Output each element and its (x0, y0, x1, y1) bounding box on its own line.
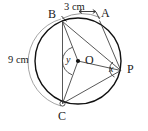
radius-O-C (63, 61, 79, 104)
circle-diagram-svg (0, 0, 148, 131)
measure-label-9cm: 9 cm (8, 55, 29, 66)
arc-measure-9cm (28, 19, 61, 106)
measure-label-3cm: 3 cm (64, 2, 85, 13)
angle-label-y: y (66, 55, 70, 65)
geometry-diagram-canvas: B A P C O y x 3 cm 9 cm (0, 0, 148, 131)
angle-label-x: x (109, 64, 113, 74)
point-label-O: O (85, 54, 94, 66)
point-label-C: C (58, 110, 66, 122)
point-label-A: A (101, 7, 110, 19)
arrow-tick-right-3cm (96, 12, 100, 19)
point-label-P: P (127, 63, 134, 75)
center-point-O (76, 59, 80, 63)
point-label-B: B (48, 8, 56, 20)
